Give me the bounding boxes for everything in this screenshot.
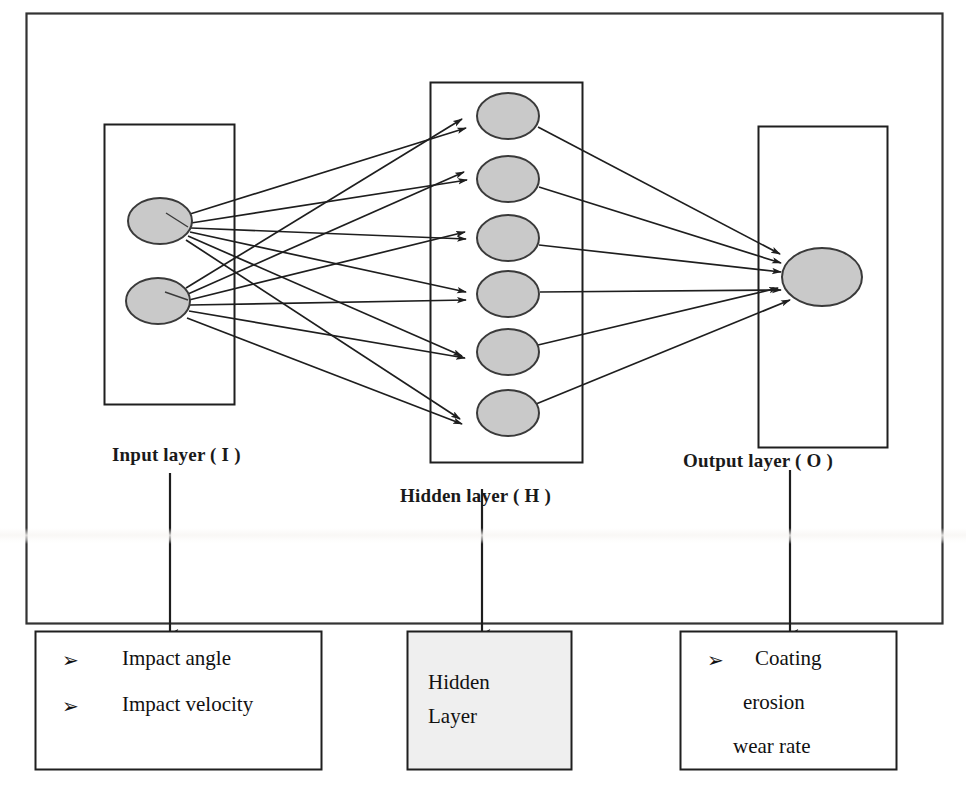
node-internal-marks [165, 213, 188, 300]
output-layer-nodes [782, 248, 862, 306]
edge-i1-h5 [188, 236, 462, 356]
hidden-layer-box [431, 83, 583, 463]
outer-frame [27, 14, 943, 624]
node-hidden-1 [477, 93, 539, 139]
hidden-box-line-2: Layer [428, 706, 477, 727]
node-input-2 [126, 278, 190, 324]
output-layer-box [759, 127, 888, 448]
edge-i1-h1 [190, 128, 466, 214]
node-hidden-5 [477, 329, 539, 375]
mark-input-2 [165, 292, 188, 300]
hidden-layer-bottom-box [408, 632, 572, 770]
output-layer-label: Output layer ( O ) [683, 451, 833, 470]
edge-i2-h6 [187, 318, 462, 424]
node-input-1 [128, 198, 192, 244]
hidden-box-line-1: Hidden [428, 672, 490, 693]
output-line-3: wear rate [733, 736, 811, 757]
edge-i2-h2 [188, 172, 464, 294]
connections-input-to-hidden [186, 119, 467, 424]
bullet-icon-impact-velocity: ➢ [62, 696, 79, 716]
bullet-icon-coating: ➢ [707, 650, 724, 670]
edge-h6-o1 [536, 300, 790, 404]
edge-i2-h1 [186, 119, 462, 288]
edge-i1-h4 [190, 232, 466, 292]
figure-canvas: Input layer ( I ) Hidden layer ( H ) Out… [0, 0, 966, 795]
node-hidden-3 [477, 215, 539, 261]
output-line-1: Coating [755, 648, 822, 669]
edge-i1-h3 [191, 228, 466, 239]
edge-h5-o1 [538, 288, 778, 345]
edge-i1-h2 [191, 180, 467, 223]
input-layer-label: Input layer ( I ) [112, 445, 241, 464]
node-hidden-6 [477, 390, 539, 436]
edge-i2-h3 [189, 232, 465, 300]
input-item-impact-angle: Impact angle [122, 648, 231, 669]
hidden-layer-nodes [477, 93, 539, 436]
node-hidden-4 [477, 271, 539, 317]
node-output-1 [782, 248, 862, 306]
edge-h4-o1 [540, 290, 781, 292]
output-line-2: erosion [743, 692, 805, 713]
connections-hidden-to-output [536, 127, 790, 404]
edge-h3-o1 [539, 245, 781, 272]
edge-i1-h6 [186, 240, 460, 419]
input-item-impact-velocity: Impact velocity [122, 694, 253, 715]
edge-i2-h5 [189, 311, 465, 358]
node-hidden-2 [477, 156, 539, 202]
scan-artifact [0, 528, 966, 544]
hidden-layer-label: Hidden layer ( H ) [400, 486, 551, 505]
bullet-icon-impact-angle: ➢ [62, 650, 79, 670]
edge-h1-o1 [538, 127, 780, 254]
mark-input-1 [166, 213, 188, 227]
input-layer-nodes [126, 198, 192, 324]
edge-i2-h4 [190, 300, 466, 305]
edge-h2-o1 [539, 187, 781, 263]
input-layer-box [105, 125, 235, 405]
